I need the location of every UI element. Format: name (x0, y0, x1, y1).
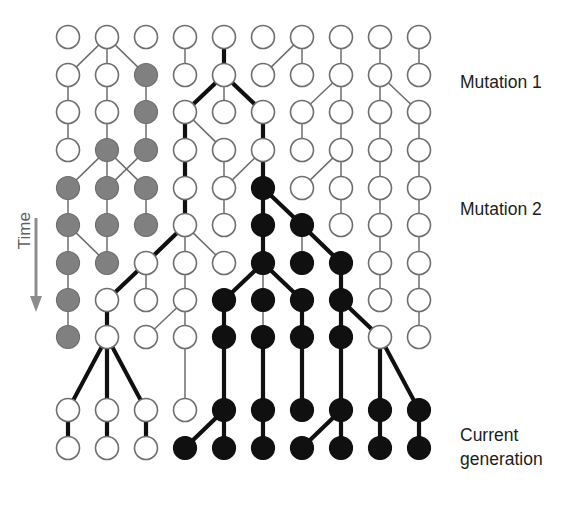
individual-node-white (291, 26, 314, 49)
genealogy-canvas: Time Mutation 1 Mutation 2 Current gener… (0, 0, 579, 510)
individual-node-white (408, 289, 431, 312)
individual-node-white (213, 177, 236, 200)
individual-node-white (213, 101, 236, 124)
individual-node-white (408, 64, 431, 87)
individual-node-white (174, 139, 197, 162)
individual-node-white (369, 101, 392, 124)
lineage-edge (384, 345, 414, 401)
individual-node-white (408, 326, 431, 349)
individual-node-white (291, 177, 314, 200)
time-axis-label: Time (15, 212, 34, 249)
individual-node-gray (96, 252, 119, 275)
lineage-edge (111, 345, 141, 401)
edges-layer (68, 44, 419, 442)
lineage-edge (75, 44, 100, 69)
individual-node-white (135, 326, 158, 349)
individual-node-gray (96, 214, 119, 237)
individual-node-black (252, 326, 275, 349)
lineage-edge (114, 270, 139, 294)
individual-node-white (57, 101, 80, 124)
lineage-edge (75, 157, 100, 182)
individual-node-white (252, 26, 275, 49)
individual-node-black (291, 437, 314, 460)
individual-node-white (213, 26, 236, 49)
lineage-edge (192, 119, 217, 144)
individual-node-gray (57, 177, 80, 200)
individual-node-white (408, 177, 431, 200)
individual-node-black (291, 214, 314, 237)
individual-node-white (408, 101, 431, 124)
individual-node-black (213, 326, 236, 349)
individual-node-white (408, 252, 431, 275)
lineage-edge (348, 307, 373, 331)
individual-node-white (369, 26, 392, 49)
individual-node-black (369, 399, 392, 422)
lineage-edge (75, 232, 100, 257)
individual-node-black (291, 326, 314, 349)
individual-node-black (330, 326, 353, 349)
individual-node-white (291, 101, 314, 124)
individual-node-gray (57, 289, 80, 312)
individual-node-white (213, 64, 236, 87)
individual-node-white (252, 139, 275, 162)
individual-node-white (369, 289, 392, 312)
individual-node-white (135, 399, 158, 422)
individual-node-black (330, 399, 353, 422)
lineage-edge (270, 44, 295, 69)
lineage-edge (192, 417, 217, 442)
lineage-edge (387, 82, 412, 106)
individual-node-white (408, 139, 431, 162)
individual-node-black (330, 437, 353, 460)
individual-node-white (330, 214, 353, 237)
individual-node-black (408, 437, 431, 460)
individual-node-white (57, 399, 80, 422)
individual-node-black (174, 437, 197, 460)
individual-node-white (174, 326, 197, 349)
individual-node-gray (57, 252, 80, 275)
nodes-layer (57, 26, 431, 460)
individual-node-gray (96, 139, 119, 162)
individual-node-gray (135, 214, 158, 237)
individual-node-white (330, 26, 353, 49)
time-arrow-head (30, 296, 42, 312)
lineage-edge (72, 345, 102, 401)
individual-node-gray (57, 326, 80, 349)
lineage-edge (153, 232, 178, 257)
individual-node-black (369, 437, 392, 460)
individual-node-black (291, 252, 314, 275)
individual-node-white (57, 437, 80, 460)
current-generation-label-line2: generation (460, 449, 543, 469)
lineage-edge (153, 307, 178, 331)
individual-node-black (252, 437, 275, 460)
individual-node-white (369, 64, 392, 87)
individual-node-white (135, 252, 158, 275)
individual-node-white (96, 437, 119, 460)
lineage-edge (114, 44, 139, 69)
individual-node-black (213, 437, 236, 460)
current-generation-label-line1: Current (460, 425, 518, 445)
individual-node-white (174, 399, 197, 422)
mutation-2-label: Mutation 2 (460, 199, 542, 219)
individual-node-black (291, 289, 314, 312)
lineage-edge (309, 157, 334, 182)
individual-node-gray (135, 64, 158, 87)
individual-node-white (174, 177, 197, 200)
individual-node-white (96, 399, 119, 422)
lineage-edge (192, 82, 217, 106)
individual-node-black (252, 252, 275, 275)
individual-node-white (213, 214, 236, 237)
coalescent-genealogy-figure: Time Mutation 1 Mutation 2 Current gener… (0, 0, 579, 510)
individual-node-black (213, 399, 236, 422)
individual-node-gray (135, 177, 158, 200)
individual-node-white (174, 64, 197, 87)
individual-node-gray (135, 101, 158, 124)
individual-node-white (330, 139, 353, 162)
individual-node-white (96, 101, 119, 124)
individual-node-white (57, 26, 80, 49)
individual-node-white (174, 214, 197, 237)
individual-node-black (252, 177, 275, 200)
individual-node-white (135, 437, 158, 460)
individual-node-white (57, 139, 80, 162)
individual-node-black (330, 289, 353, 312)
individual-node-white (408, 214, 431, 237)
